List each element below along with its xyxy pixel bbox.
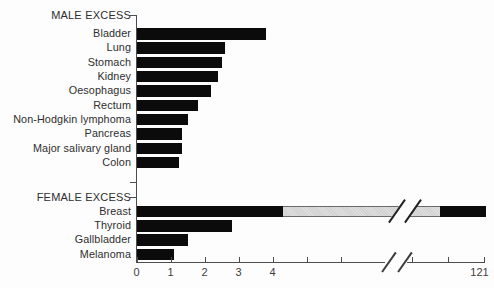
bar-break-segment — [283, 206, 440, 218]
bar — [137, 85, 212, 97]
bar-label: Thyroid — [94, 219, 131, 232]
x-axis-tick — [307, 257, 308, 262]
bar-label: Oesophagus — [69, 84, 131, 97]
bar-label: Rectum — [93, 99, 131, 112]
x-axis-tick-label: 2 — [201, 266, 207, 278]
bar-label: Kidney — [97, 70, 131, 83]
bar-label: Major salivary gland — [33, 142, 131, 155]
bar — [137, 114, 188, 126]
chart-figure: MALE EXCESSBladderLungStomachKidneyOesop… — [0, 0, 494, 288]
bar-label: Bladder — [93, 27, 131, 40]
bar — [137, 42, 225, 54]
bar — [137, 143, 183, 155]
bar-label: Pancreas — [85, 127, 131, 140]
x-axis-tick — [484, 257, 485, 262]
section-header: MALE EXCESS — [51, 9, 131, 22]
y-axis-line — [136, 15, 137, 263]
x-axis-tick — [137, 257, 138, 262]
bar — [137, 100, 198, 112]
x-axis-tick-label: 0 — [133, 266, 139, 278]
bar — [137, 234, 188, 246]
bar — [137, 157, 180, 169]
bar-label: Lung — [107, 41, 131, 54]
x-axis-line — [136, 262, 385, 263]
bar-label: Breast — [99, 205, 131, 218]
y-axis-tick — [130, 15, 136, 16]
x-axis-tick — [341, 257, 342, 262]
x-axis-tick — [239, 257, 240, 262]
bar — [137, 57, 222, 69]
x-axis-tick — [273, 257, 274, 262]
x-axis-tick — [412, 257, 413, 262]
section-header: FEMALE EXCESS — [37, 191, 131, 204]
bar — [137, 28, 266, 40]
x-axis-end-label: 121 — [470, 266, 488, 278]
bar-label: Melanoma — [80, 248, 131, 261]
x-axis-tick — [171, 257, 172, 262]
y-axis-tick — [130, 182, 136, 183]
bar — [137, 249, 174, 261]
bar-segment-solid — [137, 206, 283, 218]
bar-label: Non-Hodgkin lymphoma — [13, 113, 131, 126]
bar-segment-end — [440, 206, 486, 218]
x-axis-tick — [448, 257, 449, 262]
bar — [137, 128, 183, 140]
y-axis-tick — [130, 197, 136, 198]
bar-label: Stomach — [88, 56, 131, 69]
bar-label: Colon — [102, 156, 131, 169]
x-axis-line — [407, 262, 485, 263]
x-axis-tick-label: 3 — [235, 266, 241, 278]
bar-label: Gallbladder — [75, 233, 131, 246]
x-axis-tick-label: 1 — [167, 266, 173, 278]
bar — [137, 71, 219, 83]
x-axis-tick-label: 4 — [269, 266, 275, 278]
x-axis-tick — [205, 257, 206, 262]
bar — [137, 220, 232, 232]
